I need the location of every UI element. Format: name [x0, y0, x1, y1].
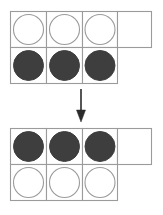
counter-empty-bottom-grid-r1-c0 [14, 168, 44, 198]
counter-filled-top-grid-r1-c2 [85, 51, 115, 81]
counter-empty-top-grid-r0-c2 [85, 15, 115, 45]
bottom-grid-top-row [11, 129, 152, 165]
arrow-head-icon [77, 110, 86, 122]
top-grid [11, 12, 152, 84]
top-grid-bottom-row [11, 48, 118, 84]
counter-empty-bottom-grid-r1-c2 [85, 168, 115, 198]
cell-bottom-grid-r0-c3-empty [118, 129, 152, 165]
transformation-arrow [77, 89, 86, 122]
top-grid-top-row [11, 12, 152, 48]
counter-filled-top-grid-r1-c0 [14, 51, 44, 81]
counter-filled-top-grid-r1-c1 [50, 51, 80, 81]
cell-top-grid-r0-c3-empty [118, 12, 152, 48]
bottom-grid-bottom-row [11, 165, 118, 201]
counter-grid-figure [0, 0, 163, 215]
counter-empty-bottom-grid-r1-c1 [50, 168, 80, 198]
counter-empty-top-grid-r0-c1 [50, 15, 80, 45]
counter-filled-bottom-grid-r0-c2 [85, 132, 115, 162]
figure-svg [0, 0, 163, 215]
bottom-grid [11, 129, 152, 201]
counter-filled-bottom-grid-r0-c1 [50, 132, 80, 162]
counter-empty-top-grid-r0-c0 [14, 15, 44, 45]
counter-filled-bottom-grid-r0-c0 [14, 132, 44, 162]
